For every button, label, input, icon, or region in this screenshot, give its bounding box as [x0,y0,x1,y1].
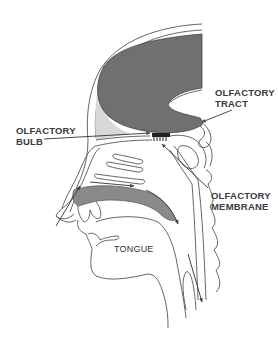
mouth-structures [56,202,186,328]
pointer-olfactory-membrane [162,144,208,188]
airflow-arrow-inhale [56,186,80,226]
olfactory-diagram [0,0,278,337]
label-olfactory-tract: OLFACTORY TRACT [215,88,275,109]
pointer-olfactory-tract [202,110,232,122]
olfactory-bulb-shape [152,133,170,141]
label-olfactory-bulb: OLFACTORY BULB [16,126,76,147]
brain [98,34,203,133]
hard-palate [73,186,176,221]
label-tongue: TONGUE [114,244,154,255]
label-olfactory-membrane: OLFACTORY MEMBRANE [211,191,271,212]
